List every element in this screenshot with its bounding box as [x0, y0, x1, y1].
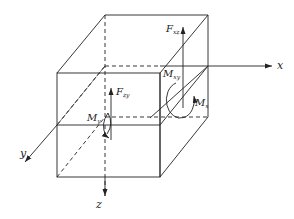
y-axis: [25, 125, 57, 162]
fxz-label: Fxz: [166, 24, 180, 35]
my-label: My: [87, 113, 101, 124]
mxy-label: Mxy: [163, 69, 180, 80]
diagram-canvas: x y z Fxz Mxy Mx Fzy My: [0, 0, 294, 219]
x-axis-label: x: [277, 60, 283, 71]
z-axis-label: z: [96, 199, 102, 210]
fzy-label: Fzy: [116, 87, 130, 98]
y-axis-label: y: [20, 148, 26, 159]
cube-diagram: [0, 0, 294, 219]
mx-label: Mx: [195, 98, 209, 109]
